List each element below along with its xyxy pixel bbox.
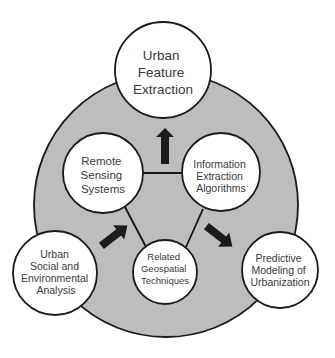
node-label-line: Predictive <box>255 252 301 264</box>
node-label-line: Systems <box>81 183 125 195</box>
node-label-line: Sensing <box>81 169 123 181</box>
node-label-line: Analysis <box>36 284 75 296</box>
node-label-line: Information <box>193 158 246 170</box>
node-label-line: Environmental <box>21 272 88 284</box>
svg-text:Predictive Modeling of: Predictive Modeling of Urbanization <box>251 252 310 288</box>
svg-text:Remote Sensing Sys: Remote Sensing Systems <box>81 155 126 195</box>
node-label-line: Extraction <box>133 82 193 97</box>
node-predictive-modeling-of-urbanization: Predictive Modeling of Urbanization <box>242 232 318 308</box>
node-related-geospatial-techniques: Related Geospatial Techniques <box>133 240 197 304</box>
node-information-extraction-algorithms: Information Extraction Algorithms <box>182 133 260 211</box>
node-label-line: Geospatial <box>141 263 186 274</box>
node-label-line: Techniques <box>141 275 189 286</box>
node-remote-sensing-systems: Remote Sensing Systems <box>63 133 143 213</box>
node-label-line: Related <box>147 251 180 262</box>
node-label-line: Extraction <box>196 170 243 182</box>
node-label-line: Remote <box>81 155 121 167</box>
node-urban-feature-extraction: Urban Feature Extraction <box>115 22 211 118</box>
node-label-line: Modeling of <box>251 264 305 276</box>
node-label-line: Urban <box>143 48 180 63</box>
svg-text:Related Geospatial: Related Geospatial Techniques <box>141 251 189 286</box>
node-label-line: Urbanization <box>251 276 310 288</box>
urban-remote-sensing-diagram: Urban Feature Extraction Remote Sensing … <box>0 0 335 358</box>
node-label-line: Urban <box>40 248 69 260</box>
svg-text:Information Extraction: Information Extraction Algorithms <box>193 158 248 194</box>
node-urban-social-environmental-analysis: Urban Social and Environmental Analysis <box>13 231 97 315</box>
node-label-line: Social and <box>30 260 79 272</box>
node-label-line: Feature <box>138 65 185 80</box>
node-label-line: Algorithms <box>196 182 246 194</box>
